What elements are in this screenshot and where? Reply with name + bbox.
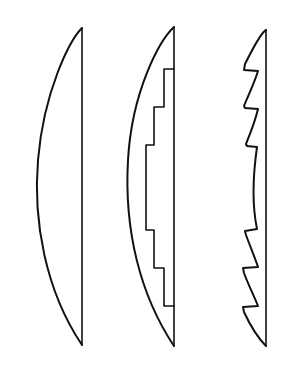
fresnel-lens xyxy=(243,30,266,346)
lens1-curved-surface xyxy=(37,28,82,345)
lens3-fresnel-surface xyxy=(243,30,266,346)
stepped-lens xyxy=(127,27,174,346)
diagram-canvas xyxy=(0,0,297,367)
lens-diagram xyxy=(0,0,297,367)
plano-convex-lens xyxy=(37,28,82,345)
lens2-step-outline xyxy=(146,69,174,306)
lens2-curved-surface xyxy=(127,27,174,346)
